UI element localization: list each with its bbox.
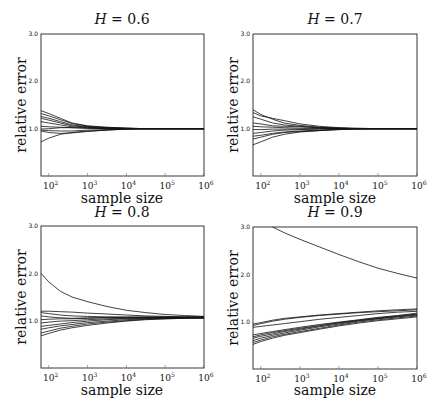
panel-h-0-7: H = 0.7 3.0 2.0 1.0 relative error 10210… <box>225 11 427 206</box>
y-tick-label: 2.0 <box>240 77 250 84</box>
y-tick-label: 3.0 <box>28 30 38 37</box>
data-curves <box>253 227 417 369</box>
plot-area <box>41 34 204 176</box>
plot-area <box>253 34 417 176</box>
data-line <box>273 227 418 278</box>
data-line <box>41 273 204 316</box>
figure: H = 0.6 3.0 2.0 1.0 relative error 10210… <box>0 0 443 416</box>
y-tick-label: 2.0 <box>28 270 38 277</box>
y-tick-label: 2.0 <box>240 271 250 278</box>
x-axis-label: sample size <box>81 382 163 398</box>
x-tick-label: 102 <box>43 371 58 383</box>
x-tick-label: 102 <box>255 179 270 191</box>
y-tick-label: 3.0 <box>240 223 250 230</box>
panel-title: H = 0.7 <box>306 11 362 27</box>
data-curves <box>41 273 204 368</box>
panel-h-0-6: H = 0.6 3.0 2.0 1.0 relative error 10210… <box>13 11 214 206</box>
x-tick-label: 106 <box>198 179 213 191</box>
y-tick-label: 1.0 <box>240 125 250 132</box>
x-tick-label: 106 <box>411 179 426 191</box>
y-tick-label: 2.0 <box>28 77 38 84</box>
data-curves <box>41 111 204 176</box>
panel-h-0-9: H = 0.9 3.0 2.0 1.0 relative error 10210… <box>225 204 427 398</box>
y-tick-label: 1.0 <box>28 317 38 324</box>
panel-title: H = 0.6 <box>93 11 149 27</box>
x-tick-label: 106 <box>411 372 426 384</box>
panel-h-0-8: H = 0.8 3.0 2.0 1.0 relative error 10210… <box>13 204 214 398</box>
data-line <box>41 311 204 317</box>
y-tick-label: 3.0 <box>28 222 38 229</box>
data-line <box>253 129 417 145</box>
data-line <box>41 114 204 129</box>
y-tick-label: 3.0 <box>240 30 250 37</box>
y-axis-label: relative error <box>13 249 29 345</box>
x-tick-label: 106 <box>198 371 213 383</box>
panel-title: H = 0.8 <box>93 204 149 220</box>
x-tick-label: 102 <box>255 372 270 384</box>
plot-area <box>41 226 204 368</box>
y-tick-label: 1.0 <box>28 125 38 132</box>
y-tick-label: 1.0 <box>240 318 250 325</box>
data-line <box>253 117 417 129</box>
y-axis-label: relative error <box>225 250 241 346</box>
x-tick-label: 102 <box>43 179 58 191</box>
data-curves <box>253 110 417 176</box>
y-axis-label: relative error <box>225 57 241 153</box>
plot-area <box>253 227 417 369</box>
y-axis-label: relative error <box>13 57 29 153</box>
panel-title: H = 0.9 <box>306 204 362 220</box>
x-axis-label: sample size <box>294 382 376 398</box>
data-line <box>41 116 204 128</box>
